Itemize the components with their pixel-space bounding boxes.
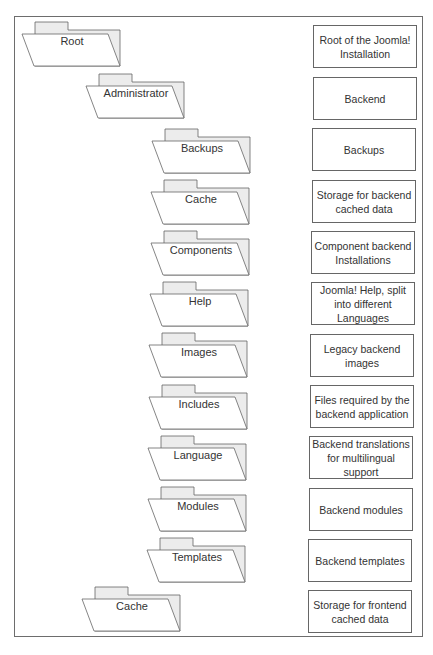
description-box: Backups [312, 128, 416, 171]
folder-label: Administrator [86, 86, 186, 100]
folder-administrator: Administrator [86, 74, 186, 120]
folder-components: Components [151, 231, 251, 277]
description-box: Backend modules [309, 488, 413, 531]
folder-label: Modules [148, 499, 248, 513]
description-box: Files required by the backend applicatio… [310, 385, 414, 428]
folder-label: Components [151, 243, 251, 257]
folder-label: Backups [152, 141, 252, 155]
description-box: Storage for backend cached data [312, 180, 416, 223]
description-box: Backend translations for multilingual su… [309, 436, 413, 479]
folder-root: Root [22, 22, 122, 68]
folder-label: Templates [147, 550, 247, 564]
description-box: Legacy backend images [310, 334, 414, 377]
folder-templates: Templates [147, 538, 247, 584]
description-box: Joomla! Help, split into different Langu… [311, 282, 415, 325]
folder-backups: Backups [152, 129, 252, 175]
folder-label: Cache [151, 192, 251, 206]
folder-help: Help [150, 282, 250, 328]
folder-label: Cache [82, 599, 182, 613]
description-box: Backend templates [308, 539, 412, 582]
folder-label: Root [22, 34, 122, 48]
folder-modules: Modules [148, 487, 248, 533]
folder-language: Language [148, 436, 248, 482]
description-box: Backend [313, 77, 417, 120]
folder-cache-frontend: Cache [82, 587, 182, 633]
folder-label: Language [148, 448, 248, 462]
description-box: Root of the Joomla! Installation [313, 25, 417, 68]
folder-includes: Includes [149, 385, 249, 431]
folder-cache-backend: Cache [151, 180, 251, 226]
folder-label: Help [150, 294, 250, 308]
folder-label: Includes [149, 397, 249, 411]
description-box: Storage for frontend cached data [308, 590, 412, 633]
description-box: Component backend Installations [311, 231, 415, 274]
folder-images: Images [149, 333, 249, 379]
folder-label: Images [149, 345, 249, 359]
